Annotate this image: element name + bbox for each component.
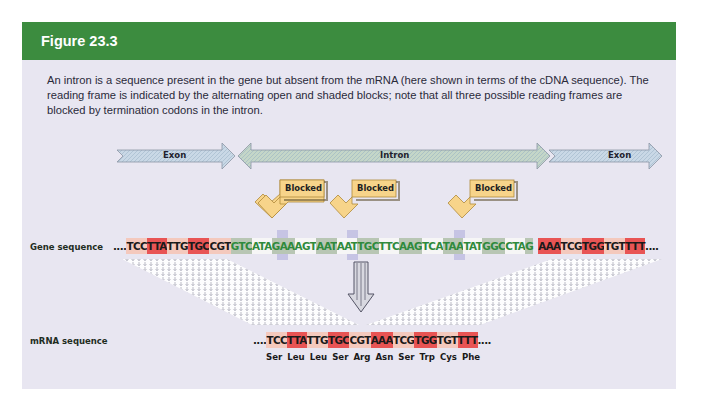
splice-down-arrow-icon <box>348 262 374 312</box>
intron-codon: GAA <box>272 238 295 254</box>
amino-acid: Asn <box>375 352 393 362</box>
intron-codon: AAT <box>316 238 337 254</box>
codon: TGC <box>188 238 209 254</box>
amino-acid: Ser <box>398 352 414 362</box>
exon-left-label: Exon <box>163 150 186 160</box>
intron-codon: TGC <box>357 238 378 254</box>
mrna-prefix: .... <box>253 332 266 348</box>
intron-codon: AGT <box>295 238 317 254</box>
figure-panel: Figure 23.3 An intron is a sequence pres… <box>22 22 676 389</box>
intron-codon: TAT <box>463 238 482 254</box>
codon: TGG <box>582 238 604 254</box>
amino-acid: Cys <box>440 352 457 362</box>
codon: TTA <box>287 332 307 348</box>
codon: TCC <box>266 332 287 348</box>
splice-funnel-left <box>122 259 359 325</box>
amino-acid: Ser <box>332 352 348 362</box>
codon: AAA <box>371 332 393 348</box>
mrna-suffix: .... <box>478 332 491 348</box>
blocked-callout-1-label: Blocked <box>285 183 322 193</box>
codon: TTG <box>307 332 328 348</box>
blocked-callout-2-label: Blocked <box>357 183 394 193</box>
codon: TCG <box>561 238 582 254</box>
intron-codon: TCA <box>422 238 443 254</box>
amino-acid: Leu <box>287 352 304 362</box>
exon-right-arrow <box>549 143 662 169</box>
mrna-sequence: ....TCCTTATTGTGCCGTAAATCGTGGTGTTTT.... <box>253 332 491 348</box>
gene-suffix: .... <box>645 238 658 254</box>
gene-sequence: ....TCCTTATTGTGCCGTGTCATAGAAAGTAATAATTGC… <box>113 238 658 254</box>
codon: TTA <box>147 238 167 254</box>
codon: TCG <box>393 332 414 348</box>
intron-codon: AAG <box>399 238 422 254</box>
gene-prefix: .... <box>113 238 126 254</box>
exon-right-label: Exon <box>608 150 631 160</box>
intron-codon: TAA <box>443 238 464 254</box>
intron-label: Intron <box>380 150 409 160</box>
amino-acid: Arg <box>353 352 370 362</box>
codon: TGT <box>604 238 625 254</box>
intron-codon: GTC <box>231 238 252 254</box>
splice-funnel-right <box>366 259 662 325</box>
codon: AAA <box>538 238 560 254</box>
codon: CGT <box>349 332 370 348</box>
intron-codon: TTC <box>379 238 399 254</box>
intron-codon: CTA <box>505 238 525 254</box>
gene-sequence-label: Gene sequence <box>30 242 103 252</box>
codon: TTT <box>625 238 645 254</box>
codon: TGC <box>328 332 349 348</box>
codon: CGT <box>209 238 230 254</box>
intron-codon: G <box>525 238 533 254</box>
intron-codon: ATA <box>252 238 272 254</box>
codon: TGG <box>414 332 436 348</box>
codon: TCC <box>126 238 147 254</box>
blocked-callout-3-label: Blocked <box>475 183 512 193</box>
codon: TTT <box>458 332 478 348</box>
amino-acid: Ser <box>266 352 282 362</box>
codon: TGT <box>437 332 458 348</box>
intron-codon: AAT <box>337 238 358 254</box>
amino-acid: Trp <box>420 352 435 362</box>
amino-acid: Leu <box>310 352 327 362</box>
amino-acids: Ser Leu Leu Ser Arg Asn Ser Trp Cys Phe <box>266 352 480 362</box>
mrna-sequence-label: mRNA sequence <box>30 336 108 346</box>
amino-acid: Phe <box>462 352 480 362</box>
intron-codon: GGC <box>482 238 505 254</box>
codon: TTG <box>167 238 188 254</box>
